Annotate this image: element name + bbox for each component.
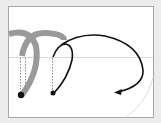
diagram-stage: Curved path arc illustration [0,0,161,123]
arc-diagram [0,0,161,123]
anchor-point-2 [51,91,56,96]
panel [9,7,154,118]
anchor-point-1 [18,92,24,98]
